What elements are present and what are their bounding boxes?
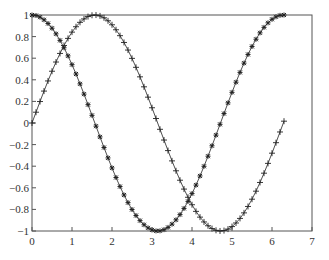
plus-marker-icon: [157, 126, 163, 132]
star-marker-icon: [54, 31, 59, 36]
plus-marker-icon: [125, 47, 131, 53]
star-marker-icon: [46, 21, 51, 26]
star-marker-icon: [202, 164, 207, 169]
plus-marker-icon: [37, 99, 43, 105]
y-tick-label: 0.6: [15, 52, 29, 64]
star-marker-icon: [90, 113, 95, 118]
plus-marker-icon: [177, 177, 183, 183]
star-marker-icon: [226, 100, 231, 105]
star-marker-icon: [282, 13, 287, 18]
plus-marker-icon: [181, 186, 187, 192]
plus-marker-icon: [245, 203, 251, 209]
star-marker-icon: [198, 173, 203, 178]
star-marker-icon: [194, 183, 199, 188]
star-marker-icon: [74, 72, 79, 77]
star-marker-icon: [114, 175, 119, 180]
plus-marker-icon: [161, 137, 167, 143]
plot-frame: [32, 15, 312, 231]
y-tick-label: 0.8: [15, 31, 29, 43]
star-marker-icon: [210, 143, 215, 148]
star-marker-icon: [38, 15, 43, 20]
plus-marker-icon: [121, 39, 127, 45]
plus-marker-icon: [145, 94, 151, 100]
plus-marker-icon: [137, 74, 143, 80]
plot-series: [29, 12, 287, 234]
x-tick-label: 2: [109, 235, 115, 247]
y-tick-label: −1: [17, 225, 29, 237]
plus-marker-icon: [165, 148, 171, 154]
plus-marker-icon: [153, 116, 159, 122]
plus-marker-icon: [265, 160, 271, 166]
x-tick-label: 5: [229, 235, 235, 247]
plus-marker-icon: [169, 158, 175, 164]
plus-marker-icon: [29, 120, 35, 126]
star-marker-icon: [98, 134, 103, 139]
star-marker-icon: [182, 206, 187, 211]
star-marker-icon: [78, 81, 83, 86]
plus-marker-icon: [281, 118, 287, 124]
star-marker-icon: [262, 25, 267, 30]
y-tick-label: 0: [24, 117, 30, 129]
tick-labels: 0123456710.80.60.40.20−0.2−0.4−0.6−0.8−1: [9, 9, 315, 247]
star-marker-icon: [30, 13, 35, 18]
star-marker-icon: [70, 62, 75, 67]
star-marker-icon: [190, 191, 195, 196]
star-marker-icon: [250, 44, 255, 49]
plus-marker-icon: [149, 105, 155, 111]
series-sin: [29, 12, 287, 234]
plus-marker-icon: [253, 188, 259, 194]
y-tick-label: −0.8: [9, 203, 29, 215]
star-marker-icon: [82, 92, 87, 97]
x-tick-label: 0: [29, 235, 35, 247]
star-marker-icon: [142, 222, 147, 227]
star-marker-icon: [122, 192, 127, 197]
plus-marker-icon: [33, 109, 39, 115]
star-marker-icon: [118, 184, 123, 189]
star-marker-icon: [242, 61, 247, 66]
star-marker-icon: [234, 80, 239, 85]
y-tick-label: −0.6: [9, 182, 29, 194]
plus-marker-icon: [241, 210, 247, 216]
plus-marker-icon: [261, 170, 267, 176]
x-tick-label: 1: [69, 235, 75, 247]
star-marker-icon: [50, 26, 55, 31]
y-tick-label: 1: [24, 9, 30, 21]
plus-marker-icon: [249, 196, 255, 202]
star-marker-icon: [42, 17, 47, 22]
star-marker-icon: [106, 155, 111, 160]
star-marker-icon: [58, 38, 63, 43]
star-marker-icon: [258, 30, 263, 35]
star-marker-icon: [126, 200, 131, 205]
y-tick-label: −0.2: [9, 139, 29, 151]
star-marker-icon: [86, 102, 91, 107]
star-marker-icon: [166, 225, 171, 230]
plus-marker-icon: [53, 59, 59, 65]
y-tick-label: 0.2: [15, 95, 29, 107]
axes: [32, 15, 312, 231]
star-marker-icon: [66, 53, 71, 58]
plus-marker-icon: [57, 50, 63, 56]
x-tick-label: 7: [309, 235, 315, 247]
star-marker-icon: [150, 227, 155, 232]
star-marker-icon: [134, 213, 139, 218]
star-marker-icon: [178, 212, 183, 217]
plus-marker-icon: [221, 228, 227, 234]
star-marker-icon: [254, 37, 259, 42]
star-marker-icon: [174, 217, 179, 222]
plus-marker-icon: [49, 68, 55, 74]
star-marker-icon: [266, 20, 271, 25]
star-marker-icon: [270, 17, 275, 22]
plus-marker-icon: [93, 12, 99, 18]
star-marker-icon: [230, 90, 235, 95]
plus-marker-icon: [133, 64, 139, 70]
star-marker-icon: [214, 133, 219, 138]
x-tick-label: 6: [269, 235, 275, 247]
star-marker-icon: [206, 154, 211, 159]
star-marker-icon: [170, 222, 175, 227]
plus-marker-icon: [193, 208, 199, 214]
plus-marker-icon: [269, 150, 275, 156]
plus-marker-icon: [273, 140, 279, 146]
plus-marker-icon: [141, 84, 147, 90]
star-marker-icon: [138, 218, 143, 223]
x-tick-label: 4: [189, 235, 195, 247]
